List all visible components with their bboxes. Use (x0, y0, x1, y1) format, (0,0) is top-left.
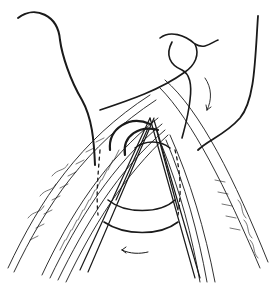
right-long-suture (198, 16, 258, 150)
wound-apex (80, 118, 200, 278)
suture-illustration (0, 0, 274, 288)
curved-arrow-icon (205, 78, 211, 110)
illustration-canvas (0, 0, 274, 288)
direction-arrow-icon (122, 247, 148, 253)
right-tissue-flap (160, 80, 268, 282)
left-needle-suture (18, 12, 95, 165)
bridging-sutures (104, 142, 178, 233)
